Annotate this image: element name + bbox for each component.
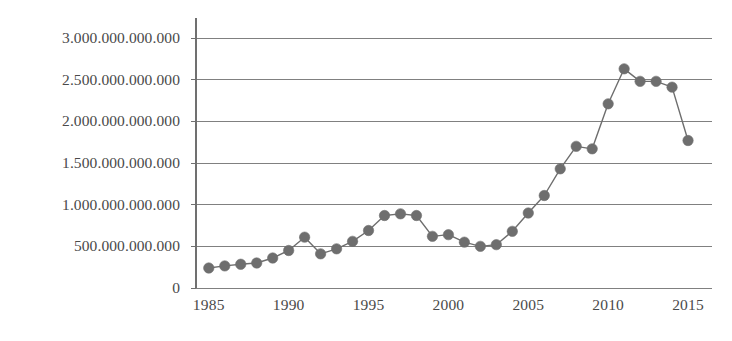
line-chart: 0500.000.000.0001.000.000.000.0001.500.0…: [0, 0, 732, 341]
x-axis-tick-label: 2010: [592, 296, 624, 314]
x-axis-tick-labels: 1985199019952000200520102015: [0, 0, 732, 341]
x-axis-tick-label: 1985: [193, 296, 225, 314]
x-axis-tick-label: 1990: [273, 296, 305, 314]
x-axis-tick-label: 1995: [353, 296, 385, 314]
x-axis-tick-label: 2015: [672, 296, 704, 314]
x-axis-tick-label: 2000: [433, 296, 465, 314]
x-axis-tick-label: 2005: [512, 296, 544, 314]
